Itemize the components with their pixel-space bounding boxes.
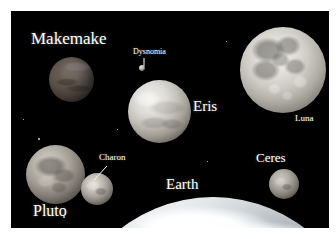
label-eris: Eris	[193, 99, 217, 114]
label-pluto: Pluto	[33, 203, 67, 219]
dwarf-planet-eris	[128, 80, 191, 143]
makemake-surface-texture	[49, 57, 94, 102]
star-field-dot	[38, 138, 40, 140]
size-comparison-figure: Makemake Dysnomia Eris Luna Pluto Charon…	[11, 11, 329, 228]
pluto-surface-texture	[26, 145, 85, 204]
label-makemake: Makemake	[31, 30, 107, 47]
star-field-dot	[23, 119, 24, 120]
moon-charon	[81, 173, 113, 205]
dwarf-planet-makemake	[49, 57, 94, 102]
star-field-dot	[117, 129, 118, 130]
star-field-dot	[207, 161, 208, 162]
moon-luna	[240, 27, 326, 113]
label-luna: Luna	[295, 114, 314, 123]
ceres-surface-texture	[269, 169, 299, 199]
dwarf-planet-ceres	[269, 169, 299, 199]
star-field-dot	[226, 41, 227, 42]
label-ceres: Ceres	[256, 151, 286, 164]
label-earth: Earth	[166, 177, 198, 192]
label-charon: Charon	[99, 153, 126, 162]
label-dysnomia: Dysnomia	[133, 48, 166, 56]
charon-surface-texture	[81, 173, 113, 205]
luna-mare-texture	[240, 27, 326, 113]
moon-dysnomia	[139, 65, 145, 71]
eris-surface-texture	[128, 80, 191, 143]
dwarf-planet-pluto	[26, 145, 85, 204]
